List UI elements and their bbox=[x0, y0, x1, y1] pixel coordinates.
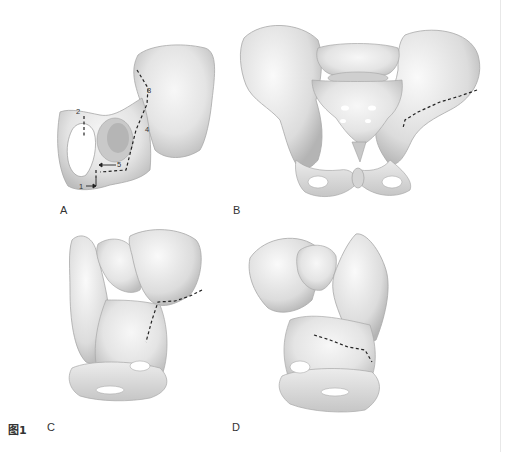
marker-2: 2 bbox=[76, 107, 80, 116]
panel-label-c: C bbox=[47, 421, 55, 433]
marker-5: 5 bbox=[117, 160, 121, 169]
figure: 2 3 4 5 1 bbox=[0, 0, 505, 452]
panel-b-illustration bbox=[240, 25, 479, 196]
panel-label-b: B bbox=[233, 204, 240, 216]
marker-1: 1 bbox=[79, 182, 83, 191]
panel-c-illustration bbox=[69, 230, 202, 401]
page-edge-divider bbox=[500, 0, 501, 452]
marker-4: 4 bbox=[145, 125, 149, 134]
panel-a-illustration: 2 3 4 5 1 bbox=[58, 45, 215, 191]
marker-3: 3 bbox=[147, 86, 151, 95]
panel-label-a: A bbox=[60, 204, 67, 216]
figure-number: 图1 bbox=[8, 421, 27, 437]
panel-label-d: D bbox=[232, 421, 240, 433]
panel-d-illustration bbox=[249, 234, 388, 412]
pelvis-illustrations: 2 3 4 5 1 bbox=[0, 0, 505, 452]
